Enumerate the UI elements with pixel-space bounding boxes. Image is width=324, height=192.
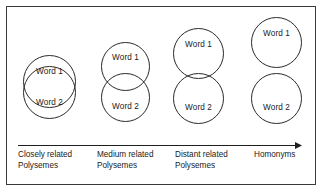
caption-line-1: Homonyms bbox=[254, 150, 295, 161]
arrow-icon bbox=[18, 141, 302, 150]
venn-group-closely-related: Word 1 Word 2 bbox=[21, 54, 77, 120]
caption-line-2: Polysemes bbox=[18, 161, 72, 172]
venn-group-medium-related: Word 1 Word 2 bbox=[99, 41, 153, 122]
circle-word1-label: Word 1 bbox=[174, 40, 223, 49]
venn-group-distant-related: Word 1 Word 2 bbox=[171, 27, 227, 124]
caption-homonyms: Homonyms bbox=[254, 150, 295, 161]
circle-word2-label: Word 2 bbox=[24, 98, 75, 107]
circle-word1-homonyms: Word 1 bbox=[251, 17, 302, 68]
caption-line-1: Medium related bbox=[97, 150, 153, 161]
circle-word2-label: Word 2 bbox=[102, 102, 149, 111]
caption-row: Closely related Polysemes Medium related… bbox=[6, 150, 316, 182]
circle-word2-closely-related: Word 2 bbox=[23, 66, 76, 119]
circle-word1-distant-related: Word 1 bbox=[173, 28, 224, 79]
caption-distant-related: Distant related Polysemes bbox=[175, 150, 228, 171]
circle-word1-label: Word 1 bbox=[102, 53, 149, 62]
venn-group-homonyms: Word 1 Word 2 bbox=[249, 16, 305, 124]
semantic-relatedness-arrow bbox=[18, 136, 302, 145]
caption-line-2: Polysemes bbox=[175, 161, 228, 172]
circle-word2-distant-related: Word 2 bbox=[173, 73, 224, 124]
caption-line-2: Polysemes bbox=[97, 161, 153, 172]
caption-closely-related: Closely related Polysemes bbox=[18, 150, 72, 171]
caption-line-1: Distant related bbox=[175, 150, 228, 161]
caption-line-1: Closely related bbox=[18, 150, 72, 161]
caption-medium-related: Medium related Polysemes bbox=[97, 150, 153, 171]
circle-word2-medium-related: Word 2 bbox=[101, 73, 150, 122]
circle-word1-label: Word 1 bbox=[252, 29, 301, 38]
circle-word2-homonyms: Word 2 bbox=[251, 73, 302, 124]
circle-word2-label: Word 2 bbox=[252, 103, 301, 112]
diagram-canvas: Word 1 Word 2 Word 1 Word 2 Word 1 Word … bbox=[0, 0, 324, 192]
circle-word2-label: Word 2 bbox=[174, 103, 223, 112]
